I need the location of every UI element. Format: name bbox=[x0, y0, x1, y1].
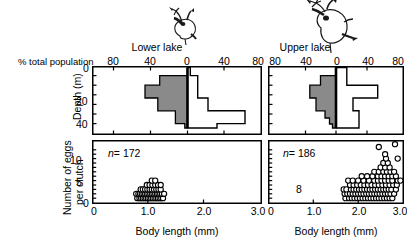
lower-top-tick-0: 0 bbox=[184, 56, 190, 67]
upper-overlap-count-annotation: 8 bbox=[296, 184, 302, 195]
eggs-tick-10: 10 bbox=[70, 155, 82, 166]
lower-top-tick-80R: 80 bbox=[252, 56, 264, 67]
upper-x-tick-2: 2.0 bbox=[352, 206, 367, 217]
lower-sample-size-annotation: n= 172 bbox=[108, 148, 140, 159]
upper-n-value: = 186 bbox=[289, 147, 316, 159]
upper-top-tick-80R: 80 bbox=[392, 56, 404, 67]
eggs-axis-label-line1: Number of eggs bbox=[62, 140, 73, 215]
depth-tick-40: 40 bbox=[76, 119, 88, 130]
depth-tick-0: 0 bbox=[83, 63, 89, 74]
lower-x-axis-title: Body length (mm) bbox=[136, 226, 219, 237]
upper-top-tick-40L: 40 bbox=[300, 56, 312, 67]
upper-top-tick-0: 0 bbox=[334, 56, 340, 67]
upper-top-tick-40R: 40 bbox=[362, 56, 374, 67]
lower-x-tick-2: 2.0 bbox=[197, 206, 212, 217]
upper-sample-size-annotation: n= 186 bbox=[283, 148, 315, 159]
column-title-lower: Lower lake bbox=[132, 42, 183, 53]
lower-x-tick-3: 3.0 bbox=[251, 206, 266, 217]
lower-top-tick-80L: 80 bbox=[107, 56, 119, 67]
panel-lower-depth-chart bbox=[92, 66, 262, 135]
eggs-tick-0: 0 bbox=[83, 198, 89, 209]
upper-x-tick-3: 3.0 bbox=[393, 206, 407, 217]
lower-top-tick-40R: 40 bbox=[218, 56, 230, 67]
upper-x-axis-title: Body length (mm) bbox=[295, 226, 378, 237]
lower-n-value: = 172 bbox=[114, 147, 141, 159]
upper-x-tick-1: 1.0 bbox=[307, 206, 322, 217]
lower-x-tick-0: 0 bbox=[91, 206, 97, 217]
panel-upper-depth-chart bbox=[268, 66, 404, 135]
eggs-tick-5: 5 bbox=[76, 177, 82, 188]
upper-x-tick-0: 0 bbox=[268, 206, 274, 217]
column-title-upper: Upper lake bbox=[280, 42, 331, 53]
depth-tick-20: 20 bbox=[76, 96, 88, 107]
lower-x-tick-1: 1.0 bbox=[141, 206, 156, 217]
lower-top-tick-40L: 40 bbox=[144, 56, 156, 67]
upper-top-tick-80L: 80 bbox=[269, 56, 281, 67]
figure-root: Lower lake Upper lake % total population… bbox=[0, 0, 407, 247]
